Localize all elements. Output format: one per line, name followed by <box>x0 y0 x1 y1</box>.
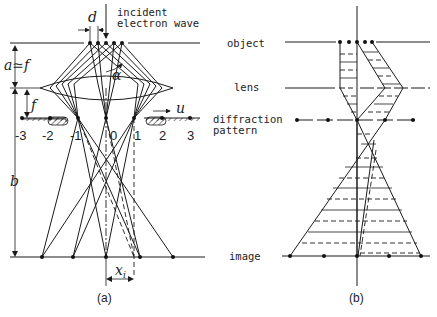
lens-a <box>40 76 173 100</box>
d-label: d <box>88 9 97 25</box>
diffraction-plane-a <box>20 116 200 125</box>
svg-text:-3: -3 <box>15 128 27 143</box>
b-label: b <box>10 173 19 189</box>
alpha-label: α <box>112 67 122 83</box>
panel-a: incident electron wave d a≃f b <box>4 4 205 305</box>
u-label: u <box>176 100 185 116</box>
plane-labels: object lens diffraction pattern image <box>213 37 283 262</box>
xi-label: xi <box>115 262 126 280</box>
svg-text:1: 1 <box>134 128 141 143</box>
caption-b: (b) <box>349 291 364 305</box>
caption-a: (a) <box>97 291 112 305</box>
f-label: f <box>30 97 39 113</box>
panel-b: (b) <box>282 6 430 305</box>
electron-imaging-diagram: incident electron wave d a≃f b <box>0 0 437 317</box>
label-lens: lens <box>234 81 259 93</box>
label-object: object <box>227 37 265 49</box>
beam-interior-line <box>358 140 374 256</box>
beam-first-order-right-edge <box>372 42 403 120</box>
incident-label-2: electron wave <box>117 17 199 29</box>
label-image: image <box>229 250 261 262</box>
svg-text:3: 3 <box>187 128 194 143</box>
a-approx-f-label: a≃f <box>4 57 32 73</box>
beam-hatching-upper <box>340 52 400 112</box>
svg-text:2: 2 <box>159 128 166 143</box>
order-labels: -3 -2 -1 0 1 2 3 <box>15 128 194 143</box>
rays-diffraction-to-image <box>42 118 173 257</box>
object-points-b <box>338 40 374 44</box>
svg-text:-2: -2 <box>42 128 54 143</box>
label-diffraction-2: pattern <box>213 124 257 136</box>
beam-first-order-left-edge <box>357 42 385 120</box>
